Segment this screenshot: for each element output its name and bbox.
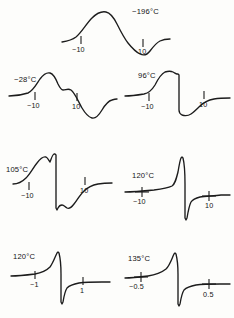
temperature-label-120c-row3: 120°C — [132, 172, 154, 180]
tick-left-120c-row3 — [135, 187, 149, 197]
tick-label-left-135c: −0.5 — [129, 283, 144, 290]
spectrum-panel-28c: −28°C −10 10 — [8, 68, 118, 130]
esr-spectra-figure: −196°C −10 10 −28°C −10 10 96°C −10 10 1… — [0, 0, 234, 318]
spectrum-trace-105c — [12, 150, 114, 226]
tick-label-left-96c: −10 — [141, 103, 154, 110]
tick-label-left-196c: −10 — [72, 46, 85, 53]
tick-right-135c — [202, 279, 216, 289]
tick-label-right-105c: 10 — [80, 187, 88, 194]
temperature-label-135c: 135°C — [128, 255, 150, 263]
tick-left-135c — [134, 272, 148, 282]
temperature-label-196c: −196°C — [132, 8, 159, 16]
spectrum-panel-120c-row3: 120°C −10 10 — [124, 150, 232, 228]
temperature-label-96c: 96°C — [138, 72, 156, 80]
tick-label-right-135c: 0.5 — [203, 291, 214, 298]
tick-label-right-196c: 10 — [138, 48, 146, 55]
spectrum-trace-120c-row3 — [124, 150, 232, 228]
tick-label-left-120c-row4: −1 — [30, 281, 39, 288]
spectrum-panel-135c: 135°C −0.5 0.5 — [124, 248, 232, 316]
tick-label-right-120c-row4: 1 — [80, 287, 84, 294]
tick-label-right-96c: 10 — [199, 101, 207, 108]
temperature-label-120c-row4: 120°C — [13, 253, 35, 261]
tick-label-right-120c-row3: 10 — [205, 202, 213, 209]
tick-label-left-120c-row3: −10 — [133, 198, 146, 205]
tick-label-left-28c: −10 — [27, 102, 40, 109]
tick-right-120c-row3 — [202, 191, 216, 201]
tick-label-right-28c: 10 — [72, 103, 80, 110]
tick-label-left-105c: −10 — [21, 192, 34, 199]
temperature-label-28c: −28°C — [14, 76, 36, 84]
temperature-label-105c: 105°C — [6, 166, 28, 174]
spectrum-panel-96c: 96°C −10 10 — [124, 66, 232, 132]
spectrum-panel-105c: 105°C −10 10 — [12, 150, 114, 226]
spectrum-panel-120c-row4: 120°C −1 1 — [10, 248, 112, 314]
spectrum-panel-196c: −196°C −10 10 — [60, 6, 172, 64]
